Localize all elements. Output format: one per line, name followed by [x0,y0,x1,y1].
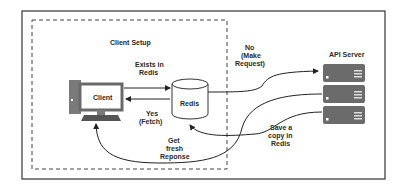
edge-no-make-request [208,71,318,92]
get-label: Get [168,137,180,144]
save-label: Save a [270,124,292,131]
redis-database-icon [172,79,208,119]
no-label: (Make [241,52,261,60]
get-label: Reponse [160,153,190,161]
save-label: Redis [271,140,290,147]
cache-flow-diagram: Client Setup Client Redis Exists in Redi… [0,0,404,189]
exists-label: Exists in [135,61,164,68]
redis-label: Redis [180,100,199,107]
no-label: Request) [235,60,265,68]
yes-label: (Fetch) [139,118,162,126]
exists-label: Redis [139,69,158,76]
api-server-label: API Server [329,51,365,58]
save-label: copy in [268,132,293,140]
client-label: Client [93,94,113,101]
client-setup-label: Client Setup [110,39,151,47]
yes-label: Yes [146,110,158,117]
edge-save-copy [190,112,322,135]
no-label: No [245,44,254,51]
server-stack-icon [323,64,365,124]
get-label: fresh [166,145,183,152]
